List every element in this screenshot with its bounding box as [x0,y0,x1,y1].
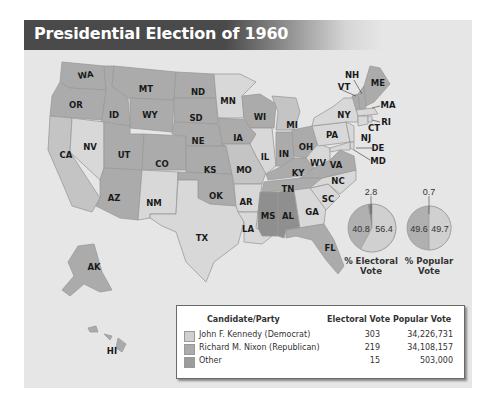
state-ma [356,108,378,116]
pie-popular-nixon-label: 49.6 [410,224,428,234]
label-ky: KY [292,168,306,178]
pie-popular-caption: % Popular [405,256,454,266]
label-wi: WI [254,112,267,122]
label-ne: NE [192,136,205,146]
label-ga: GA [305,207,319,217]
legend-popular-value: 34,226,731 [184,330,453,339]
legend-header-candidate: Candidate/Party [207,315,280,324]
legend-row-kennedy: John F. Kennedy (Democrat) 303 34,226,73… [184,330,459,342]
label-tx: TX [196,233,209,243]
state-ut [104,122,144,170]
label-ar: AR [239,197,253,207]
label-wy: WY [142,110,158,120]
label-mt: MT [139,84,153,94]
pie-popular-vote: 0.7 49.6 49.7 % Popular Vote [405,187,454,276]
label-nd: ND [191,87,205,97]
legend-popular-value: 503,000 [184,356,453,365]
label-or: OR [69,100,83,110]
pie-popular-caption-2: Vote [418,266,440,276]
label-mn: MN [220,96,236,106]
state-nm [138,170,178,220]
legend-table: Candidate/Party Electoral Vote Popular V… [176,305,465,379]
label-nh: NH [345,70,359,80]
label-ct: CT [368,123,380,133]
label-va: VA [330,160,343,170]
label-al: AL [282,211,295,221]
label-me: ME [371,78,385,88]
label-ny: NY [337,110,351,120]
label-ut: UT [118,150,131,160]
label-ri: RI [381,117,391,127]
label-hi: HI [107,346,117,356]
state-de [350,142,354,150]
state-wi [242,94,276,128]
label-ms: MS [261,211,276,221]
label-mi: MI [286,120,298,130]
legend-row-other: Other 15 503,000 [184,356,459,368]
legend-header-popular: Popular Vote [393,315,451,324]
label-az: AZ [108,193,121,203]
label-co: CO [155,159,168,169]
legend-popular-value: 34,108,157 [184,343,453,352]
label-md: MD [370,156,386,166]
pie-electoral-vote: 2.8 40.8 56.4 % Electoral Vote [344,187,398,276]
state-ri [368,116,372,122]
label-de: DE [372,143,385,153]
label-wv: WV [310,158,326,168]
pie-popular-other-label: 0.7 [423,187,436,197]
label-ma: MA [380,100,395,110]
label-ia: IA [233,133,243,143]
legend-row-nixon: Richard M. Nixon (Republican) 219 34,108… [184,343,459,355]
label-nm: NM [146,198,162,208]
label-nj: NJ [361,133,371,143]
pie-popular-kennedy-label: 49.7 [431,224,449,234]
label-nc: NC [331,176,344,186]
label-oh: OH [299,142,313,152]
label-sd: SD [189,113,202,123]
label-pa: PA [326,130,338,140]
state-ny [312,98,358,126]
label-ak: AK [87,262,101,272]
label-fl: FL [324,243,336,253]
label-sc: SC [322,194,334,204]
label-ks: KS [204,165,217,175]
pie-electoral-nixon-label: 40.8 [352,224,370,234]
legend-header-electoral: Electoral Vote [327,315,390,324]
pie-electoral-other-label: 2.8 [365,187,378,197]
label-la: LA [242,224,254,234]
label-in: IN [279,149,289,159]
pie-electoral-caption-2: Vote [360,266,382,276]
label-ok: OK [209,191,223,201]
label-id: ID [109,110,119,120]
label-vt: VT [338,82,351,92]
pie-electoral-kennedy-label: 56.4 [375,224,393,234]
label-ca: CA [60,150,73,160]
pie-electoral-caption: % Electoral [344,256,398,266]
label-mo: MO [236,165,252,175]
label-nv: NV [83,142,97,152]
state-ct [358,116,368,126]
label-il: IL [261,152,270,162]
label-tn: TN [282,184,295,194]
